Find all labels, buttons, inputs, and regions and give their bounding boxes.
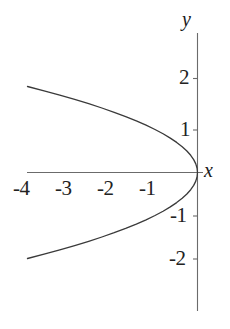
parabola-plot: x y -4 -3 -2 -1 2 1 -1 -2 bbox=[0, 0, 230, 329]
x-tick-label-minus-4: -4 bbox=[13, 178, 30, 199]
y-tick-label-2: 2 bbox=[179, 67, 189, 88]
y-axis-label: y bbox=[182, 9, 191, 29]
x-axis-label: x bbox=[204, 160, 213, 180]
x-tick-label-minus-1: -1 bbox=[139, 178, 156, 199]
x-tick-label-minus-2: -2 bbox=[97, 178, 114, 199]
y-tick-label-minus-2: -2 bbox=[169, 248, 186, 269]
y-tick-label-minus-1: -1 bbox=[170, 205, 187, 226]
x-tick-label-minus-3: -3 bbox=[55, 178, 72, 199]
y-tick-label-1: 1 bbox=[180, 119, 190, 140]
plot-canvas bbox=[0, 0, 230, 329]
